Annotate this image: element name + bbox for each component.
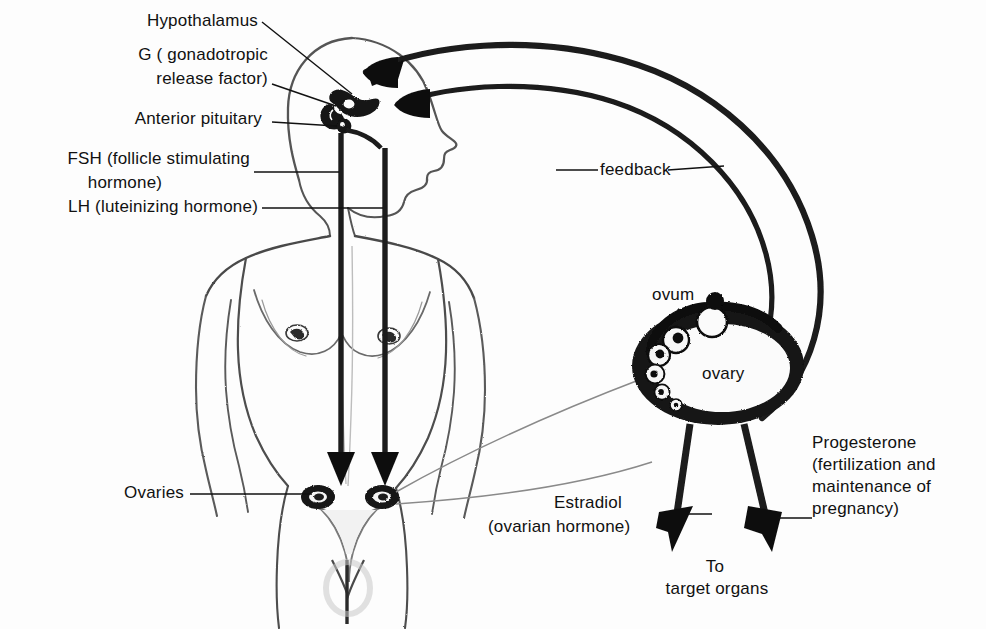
label-ovaries: Ovaries [0,482,184,503]
nipple-right [378,328,400,344]
nipple-left [286,325,308,341]
magnification-leader-lines [396,378,652,504]
label-anterior-pituitary: Anterior pituitary [0,108,262,129]
label-fsh-line1: FSH (follicle stimulating [0,148,250,169]
label-lh: LH (luteinizing hormone) [0,196,258,217]
mature-follicle [697,307,727,337]
label-progesterone-line3: maintenance of [812,476,931,497]
follicle-3 [646,365,665,384]
label-target-line2: target organs [632,578,802,599]
label-progesterone-line2: (fertilization and [812,454,936,475]
label-target-line1: To [650,556,780,577]
leader-hypothalamus [262,22,352,94]
label-feedback: feedback [600,159,671,180]
progesterone-down-arrow [744,424,782,552]
ovary-right [365,485,399,509]
label-ovum: ovum [652,284,694,305]
label-progesterone-line1: Progesterone [812,432,916,453]
estradiol-down-arrow [656,424,693,552]
hormone-feedback-diagram: Hypothalamus G ( gonadotropic release fa… [0,0,986,629]
label-estradiol-line2: (ovarian hormone) [488,516,630,537]
label-progesterone-line4: pregnancy) [812,498,899,519]
label-hypothalamus: Hypothalamus [0,10,258,31]
follicle-2 [648,344,670,366]
follicle-5 [670,399,682,411]
label-grf-line1: G ( gonadotropic [0,44,268,65]
follicle-4 [654,384,669,399]
ovary-left [301,485,335,509]
released-ovum [706,292,724,310]
label-estradiol-line1: Estradiol [498,492,678,513]
label-grf-line2: release factor) [0,68,268,89]
label-fsh-line2: hormone) [0,172,250,193]
leader-grf [272,84,336,106]
lh-down-arrow [346,130,399,486]
uterus-and-fallopian-tubes [313,506,385,624]
label-ovary: ovary [702,363,745,384]
label-leader-lines [190,22,812,518]
